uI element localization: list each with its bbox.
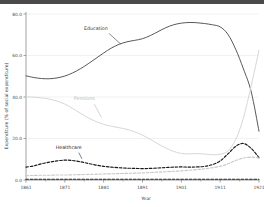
plot-container: 0.020.040.060.080.0186118711881189119011… [0,4,264,207]
axis-lines [26,12,259,180]
annotation-leader-pensions [94,104,101,117]
x-tick-label: 1881 [98,185,109,190]
annotation-leader-education [109,34,121,45]
annotation-leader-healthcare [79,153,82,159]
series-line-pensions [26,50,259,154]
y-tick-label: 60.0 [12,53,22,58]
annotation-healthcare: Healthcare [56,145,82,150]
y-tick-label: 40.0 [12,95,22,100]
annotation-pensions: Pensions [74,96,96,101]
x-tick-label: 1871 [59,185,70,190]
series-line-education [26,22,259,131]
x-axis-title: Year [140,196,151,201]
x-tick-label: 1901 [176,185,187,190]
x-tick-label: 1891 [137,185,148,190]
line-chart: 0.020.040.060.080.0186118711881189119011… [0,4,264,207]
y-tick-label: 20.0 [12,136,22,141]
x-tick-label: 1911 [215,185,226,190]
x-tick-label: 1921 [253,185,264,190]
annotation-education: Education [84,26,108,31]
chart-figure: 0.020.040.060.080.0186118711881189119011… [0,0,264,207]
y-tick-label: 80.0 [12,12,22,17]
x-tick-label: 1861 [20,185,31,190]
y-tick-label: 0.0 [15,178,22,183]
y-axis-title: Expenditure (% of social expenditure) [4,62,9,149]
axis-ticks: 0.020.040.060.080.0186118711881189119011… [12,12,264,190]
data-series [26,22,259,179]
